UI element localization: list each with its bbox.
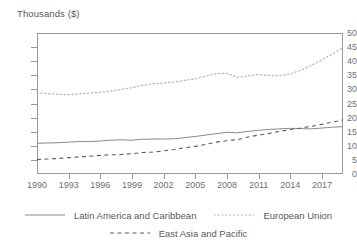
y-tick-label: 5 <box>323 155 357 165</box>
y-tick-mark <box>31 146 37 147</box>
legend-swatch-solid-icon <box>25 210 65 220</box>
legend-item-east-asia[interactable]: East Asia and Pacific <box>110 228 248 239</box>
legend-label-east-asia: East Asia and Pacific <box>159 228 248 239</box>
y-tick-mark <box>31 61 37 62</box>
y-tick-label: 20 <box>323 113 357 123</box>
y-tick-label: 45 <box>323 42 357 52</box>
x-tick-mark <box>164 174 165 179</box>
x-tick-label: 2002 <box>154 180 174 190</box>
legend-swatch-dotted-icon <box>214 210 254 220</box>
x-tick-label: 2014 <box>280 180 300 190</box>
y-tick-label: 35 <box>323 70 357 80</box>
x-tick-label: 1996 <box>90 180 110 190</box>
chart-container: Thousands ($) 05101520253035404550 19901… <box>0 0 357 250</box>
x-tick-mark <box>259 174 260 179</box>
chart-legend: Latin America and Caribbean European Uni… <box>0 206 357 242</box>
x-tick-mark <box>69 174 70 179</box>
x-tick-label: 1999 <box>122 180 142 190</box>
x-tick-mark <box>290 174 291 179</box>
y-tick-label: 0 <box>323 169 357 179</box>
x-tick-label: 2011 <box>249 180 268 190</box>
y-tick-label: 30 <box>323 84 357 94</box>
y-tick-mark <box>31 75 37 76</box>
x-tick-label: 2008 <box>217 180 237 190</box>
y-tick-mark <box>31 160 37 161</box>
x-tick-mark <box>227 174 228 179</box>
x-tick-mark <box>195 174 196 179</box>
y-tick-mark <box>31 47 37 48</box>
legend-item-latin-america[interactable]: Latin America and Caribbean <box>25 210 197 221</box>
plot-area <box>37 33 343 174</box>
y-tick-mark <box>31 89 37 90</box>
y-tick-label: 50 <box>323 28 357 38</box>
x-tick-label: 2005 <box>185 180 205 190</box>
x-tick-label: 1990 <box>27 180 47 190</box>
y-tick-label: 40 <box>323 56 357 66</box>
legend-row-primary: Latin America and Caribbean European Uni… <box>0 206 357 224</box>
y-tick-mark <box>31 118 37 119</box>
legend-item-european-union[interactable]: European Union <box>214 210 332 221</box>
x-tick-label: 1993 <box>59 180 79 190</box>
legend-label-european-union: European Union <box>263 210 332 221</box>
y-tick-mark <box>31 104 37 105</box>
legend-swatch-dashed-icon <box>110 228 150 238</box>
y-axis-title: Thousands ($) <box>17 8 80 19</box>
x-tick-label: 2017 <box>312 180 332 190</box>
legend-row-secondary: East Asia and Pacific <box>0 224 357 242</box>
y-tick-mark <box>31 132 37 133</box>
x-tick-mark <box>100 174 101 179</box>
y-tick-label: 25 <box>323 99 357 109</box>
y-tick-label: 10 <box>323 141 357 151</box>
y-tick-label: 15 <box>323 127 357 137</box>
legend-label-latin-america: Latin America and Caribbean <box>74 210 197 221</box>
x-tick-mark <box>132 174 133 179</box>
x-tick-mark <box>322 174 323 179</box>
